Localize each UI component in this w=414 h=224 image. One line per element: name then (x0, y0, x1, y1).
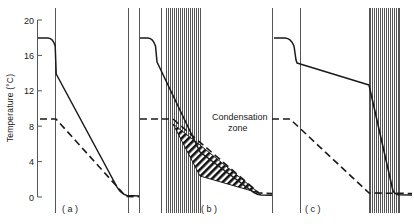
panel-a: ( a ) (38, 8, 140, 214)
y-axis: 20 16 12 8 4 0 Temperature (°C) (5, 16, 42, 203)
y-tick-label-0: 0 (29, 193, 34, 203)
y-tick-label-20: 20 (24, 16, 34, 26)
condensation-zone-label-line1: Condensation (212, 112, 268, 122)
panel-c-label: ( c ) (305, 204, 321, 214)
y-tick-label-16: 16 (24, 51, 34, 61)
panel-a-label: ( a ) (62, 204, 78, 214)
panel-b-label: ( b ) (201, 204, 217, 214)
y-tick-label-4: 4 (29, 157, 34, 167)
y-axis-ticks (38, 20, 43, 197)
panel-b: Condensation zone ( b ) (140, 8, 273, 214)
condensation-zone-label-line2: zone (228, 123, 248, 133)
figure-container: 20 16 12 8 4 0 Temperature (°C) ( a ) (0, 0, 414, 224)
y-tick-label-12: 12 (24, 86, 34, 96)
y-tick-label-8: 8 (29, 122, 34, 132)
panel-b-insulation-layer (167, 8, 200, 213)
panel-c: ( c ) (272, 8, 412, 214)
temperature-profile-chart: 20 16 12 8 4 0 Temperature (°C) ( a ) (0, 0, 414, 224)
y-axis-label: Temperature (°C) (5, 74, 15, 142)
panel-a-temperature-profile (38, 38, 140, 196)
